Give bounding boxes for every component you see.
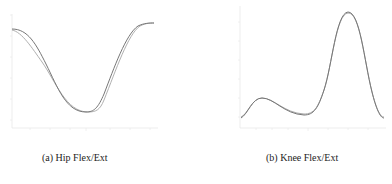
knee-series-secondary	[241, 13, 384, 117]
hip-series-primary	[12, 23, 154, 112]
knee-plot-area	[196, 0, 392, 150]
hip-axes	[10, 14, 158, 131]
hip-plot-area	[0, 0, 196, 150]
hip-flex-ext-chart: (a) Hip Flex/Ext	[0, 0, 196, 184]
knee-flex-ext-chart: (b) Knee Flex/Ext	[196, 0, 392, 184]
hip-series-secondary	[12, 23, 154, 112]
knee-series-primary	[241, 12, 384, 118]
knee-chart-caption: (b) Knee Flex/Ext	[266, 152, 338, 163]
hip-chart-caption: (a) Hip Flex/Ext	[42, 152, 108, 163]
